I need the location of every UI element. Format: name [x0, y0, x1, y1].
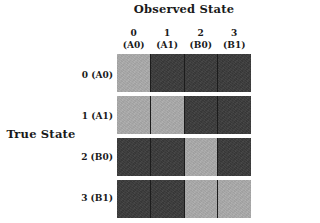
row-tick-label: 1 (A1) [55, 95, 113, 136]
matrix-row [117, 138, 251, 176]
matrix-cell [185, 96, 219, 134]
column-tick-name: (A1) [151, 39, 185, 51]
confusion-matrix-heatmap [117, 54, 251, 218]
column-tick-index: 1 [164, 28, 170, 38]
matrix-cell [151, 138, 185, 176]
matrix-cell [151, 96, 185, 134]
column-tick-labels: 0 (A0) 1 (A1) 2 (B0) 3 (B1) [117, 27, 251, 53]
row-tick-label: 3 (B1) [55, 177, 113, 218]
row-tick-label: 0 (A0) [55, 54, 113, 95]
matrix-cell [218, 138, 251, 176]
column-tick-index: 2 [198, 28, 204, 38]
column-tick-index: 3 [231, 28, 237, 38]
matrix-cell [151, 180, 185, 218]
matrix-row [117, 180, 251, 218]
matrix-cell [185, 54, 219, 92]
column-tick-label: 0 (A0) [117, 27, 151, 53]
observed-state-axis-title: Observed State [117, 2, 251, 16]
matrix-cell [117, 180, 151, 218]
matrix-cell [218, 96, 251, 134]
matrix-cell [185, 180, 219, 218]
row-tick-labels: 0 (A0) 1 (A1) 2 (B0) 3 (B1) [55, 54, 113, 218]
matrix-cell [151, 54, 185, 92]
matrix-cell [218, 54, 251, 92]
matrix-cell [117, 54, 151, 92]
column-tick-label: 3 (B1) [218, 27, 252, 53]
column-tick-name: (B0) [184, 39, 218, 51]
matrix-cell [185, 138, 219, 176]
column-tick-label: 2 (B0) [184, 27, 218, 53]
column-tick-label: 1 (A1) [151, 27, 185, 53]
column-tick-name: (A0) [117, 39, 151, 51]
matrix-cell [117, 138, 151, 176]
column-tick-index: 0 [131, 28, 137, 38]
matrix-cell [117, 96, 151, 134]
row-tick-label: 2 (B0) [55, 136, 113, 177]
matrix-row [117, 54, 251, 92]
matrix-cell [218, 180, 251, 218]
column-tick-name: (B1) [218, 39, 252, 51]
matrix-row [117, 96, 251, 134]
